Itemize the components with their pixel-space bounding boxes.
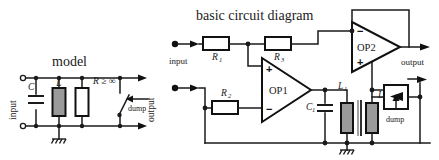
node-c1-gnd (323, 141, 328, 146)
left-inductor-body (53, 88, 66, 116)
left-res-label: R ≥ ∞ (92, 76, 116, 86)
right-input-terminal-top (172, 41, 178, 47)
left-switch-pivot (117, 113, 121, 117)
left-circuit-title: model (52, 54, 87, 69)
left-node-res-bottom (80, 124, 84, 128)
right-input-arrow-top (190, 41, 199, 48)
left-ground-symbol (52, 139, 67, 144)
left-switch-actuator-arrow (126, 96, 133, 103)
left-node-res-top (80, 76, 84, 80)
op1-label: OP1 (269, 85, 288, 96)
left-node-cap-bottom (34, 124, 38, 128)
left-node-ind-top (57, 76, 61, 80)
right-input-arrow-bottom (190, 85, 199, 92)
left-model-circuit: model input output C L (8, 54, 156, 144)
left-resistor-body (76, 88, 89, 116)
right-ground-symbol (340, 150, 355, 155)
node-l2-gnd (370, 141, 375, 146)
left-output-arrow-top (138, 75, 147, 82)
r2-sub: 2 (228, 92, 232, 99)
l1-sub: 1 (344, 85, 347, 92)
r1-label: R (211, 52, 218, 62)
l2-body (366, 103, 378, 133)
left-output-label: output (146, 97, 156, 122)
left-dump-label: dump (128, 104, 146, 113)
right-output-arrow (420, 44, 430, 51)
circuit-diagram-svg: model input output C L (0, 0, 439, 160)
r1-sub: 1 (219, 56, 222, 63)
circuit-figure: model input output C L (0, 0, 439, 160)
left-input-label: input (8, 100, 18, 120)
op2-minus-sign: − (357, 25, 363, 37)
left-input-terminal-top (20, 75, 25, 80)
op2-label: OP2 (357, 42, 376, 53)
l1-label: L (337, 81, 343, 91)
op1-plus-sign: + (266, 63, 272, 75)
r3-body (265, 37, 291, 50)
left-input-terminal-bottom (20, 123, 25, 128)
dump-label: dump (386, 115, 404, 124)
right-input-label: input (169, 56, 188, 66)
r3-label: R (273, 52, 280, 62)
op1-minus-sign: − (266, 103, 272, 115)
right-basic-circuit: basic circuit diagram input R 1 R 3 R 2 (169, 8, 430, 155)
r2-label: R (220, 88, 227, 98)
c1-sub: 1 (312, 106, 315, 113)
right-circuit-title: basic circuit diagram (196, 8, 314, 23)
left-cap-label: C (28, 82, 35, 92)
l2-label: L (377, 90, 383, 100)
left-node-cap-top (34, 76, 38, 80)
r2-body (212, 101, 238, 114)
r3-lead-right-to-op2-minus (291, 31, 352, 44)
wire-to-op1-plus (248, 44, 262, 66)
r3-sub: 3 (280, 56, 285, 63)
l1-body (341, 103, 353, 133)
r1-body (203, 37, 229, 50)
r2-input-drop (199, 88, 205, 108)
right-input-terminal-bottom (172, 85, 178, 91)
left-output-arrow-bottom (138, 123, 147, 130)
right-output-label: output (401, 57, 425, 67)
op2-plus-sign: + (357, 56, 363, 68)
